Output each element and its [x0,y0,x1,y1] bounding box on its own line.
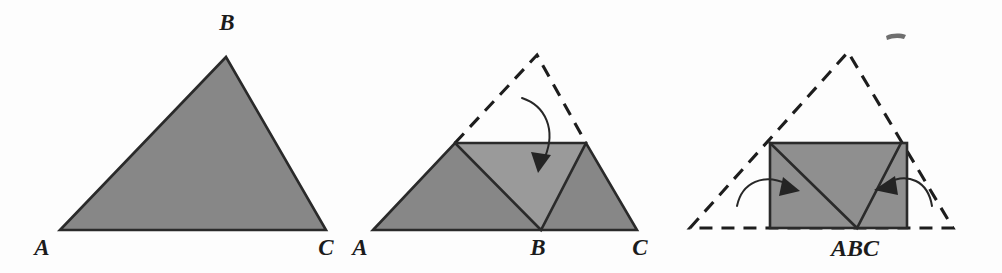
triangle-folding-diagram: B A C A B C [0,0,1002,273]
diagram-canvas: B A C A B C [0,0,1002,273]
panel-rectangle-result: ABC [690,34,953,261]
panel-original-triangle: B A C [32,10,334,260]
label-vertex-b-panel2: B [529,235,545,260]
label-vertex-b-panel1: B [218,10,234,35]
panel-midline-fold: A B C [350,55,648,260]
label-vertex-a-panel1: A [32,235,49,260]
label-vertex-c-panel1: C [318,235,334,260]
dashed-apex-outline-panel2 [455,55,586,143]
scan-speck-artifact [886,34,906,40]
triangle-abc-fill [60,57,326,230]
label-vertex-a-panel2: A [350,235,367,260]
label-vertex-c-panel2: C [632,235,648,260]
label-composite-abc-panel3: ABC [829,235,880,261]
